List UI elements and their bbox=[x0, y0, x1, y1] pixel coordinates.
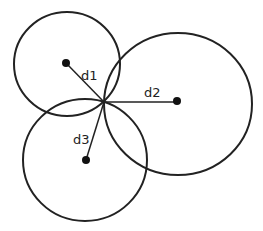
center-point-1 bbox=[62, 59, 70, 67]
center-point-2 bbox=[173, 97, 181, 105]
label-d3: d3 bbox=[73, 132, 90, 147]
trilateration-diagram: d1 d2 d3 bbox=[0, 0, 263, 231]
label-d1: d1 bbox=[81, 68, 98, 83]
diagram-canvas: d1 d2 d3 bbox=[0, 0, 263, 231]
center-point-3 bbox=[82, 156, 90, 164]
label-d2: d2 bbox=[144, 85, 161, 100]
